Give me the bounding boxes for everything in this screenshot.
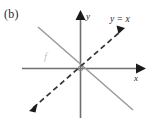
figure-graph: y x y = x f <box>0 0 152 123</box>
x-axis-arrow-icon <box>136 64 146 74</box>
identity-line-dashed <box>33 31 121 108</box>
y-axis-arrow-icon <box>76 10 86 20</box>
x-axis-label: x <box>133 73 138 83</box>
function-label-f: f <box>44 50 49 62</box>
y-axis-label: y <box>85 11 90 21</box>
identity-line-label: y = x <box>109 14 130 24</box>
identity-line-arrow-down-icon <box>29 104 38 113</box>
figure-panel-b: (b) y x y = x f <box>0 0 152 123</box>
